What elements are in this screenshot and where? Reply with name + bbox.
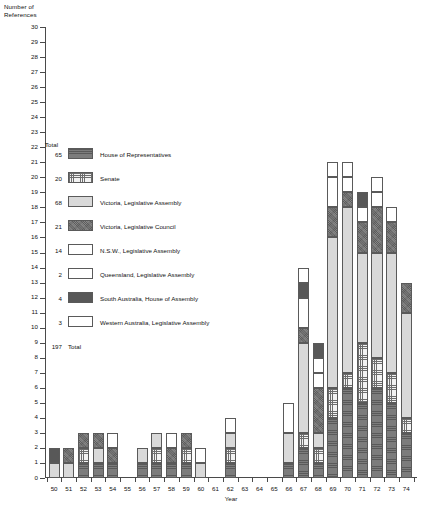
bar-segment xyxy=(327,388,338,418)
x-tick xyxy=(399,478,400,482)
x-tick xyxy=(355,478,356,482)
bar-segment xyxy=(327,237,338,387)
bar-segment xyxy=(386,253,397,373)
legend-item-label: Queensland, Legislative Assembly xyxy=(100,271,194,278)
x-tick-label: 50 xyxy=(51,485,58,492)
bar xyxy=(137,448,148,478)
bar-segment xyxy=(371,207,382,252)
x-tick xyxy=(267,478,268,482)
bar-segment xyxy=(342,192,353,207)
y-tick-label: 11 xyxy=(32,308,38,315)
bar xyxy=(327,162,338,478)
legend-item-total: 2 xyxy=(45,271,62,278)
legend-item: 2Queensland, Legislative Assembly xyxy=(45,268,275,281)
bar-segment xyxy=(357,192,368,207)
bar-segment xyxy=(107,463,118,478)
x-tick-label: 66 xyxy=(285,485,292,492)
x-tick xyxy=(238,478,239,482)
x-tick xyxy=(47,478,48,482)
y-tick-label: 8 xyxy=(35,353,38,360)
legend-item: 4South Australia, House of Assembly xyxy=(45,292,275,305)
bar-segment xyxy=(166,433,177,448)
bar xyxy=(298,268,309,478)
bar-segment xyxy=(151,448,162,463)
bar-segment xyxy=(371,253,382,358)
bar-segment xyxy=(313,448,324,463)
y-tick-label: 7 xyxy=(35,368,38,375)
legend-item-total: 14 xyxy=(45,247,62,254)
y-tick-label: 14 xyxy=(31,263,38,270)
y-tick: 13 xyxy=(40,283,45,284)
legend-swatch xyxy=(68,172,93,183)
bar-segment xyxy=(298,268,309,283)
bar-segment xyxy=(386,207,397,222)
bar-segment xyxy=(371,358,382,388)
legend-item-label: Western Australia, Legislative Assembly xyxy=(100,319,209,326)
x-tick xyxy=(179,478,180,482)
x-tick-label: 72 xyxy=(373,485,380,492)
x-tick-label: 70 xyxy=(344,485,351,492)
bar-segment xyxy=(63,448,74,463)
bar xyxy=(93,433,104,478)
bar-segment xyxy=(313,358,324,373)
legend-item: 65House of Representatives xyxy=(45,148,275,161)
x-tick xyxy=(105,478,106,482)
x-tick xyxy=(326,478,327,482)
y-tick: 28 xyxy=(40,57,45,58)
y-tick-label: 4 xyxy=(35,413,38,420)
y-tick-label: 10 xyxy=(31,323,38,330)
x-tick-label: 67 xyxy=(300,485,307,492)
bar-segment xyxy=(78,433,89,448)
legend-item-label: South Australia, House of Assembly xyxy=(100,295,198,302)
bar-segment xyxy=(195,448,206,463)
x-tick-label: 62 xyxy=(227,485,234,492)
bar-segment xyxy=(283,403,294,433)
bar xyxy=(357,192,368,478)
bar-segment xyxy=(357,222,368,252)
bar-segment xyxy=(342,207,353,372)
chart-root: Number of References 0123456789101112131… xyxy=(0,0,426,519)
x-tick xyxy=(91,478,92,482)
x-tick-label: 73 xyxy=(388,485,395,492)
legend-item-label: N.S.W., Legislative Assembly xyxy=(100,247,180,254)
y-tick-label: 28 xyxy=(31,53,38,60)
legend-item-label: Senate xyxy=(100,175,120,182)
bar-segment xyxy=(181,448,192,463)
bar xyxy=(386,207,397,478)
bar xyxy=(181,433,192,478)
bar-segment xyxy=(195,463,206,478)
bar-segment xyxy=(181,463,192,478)
y-tick-label: 22 xyxy=(31,143,38,150)
x-tick xyxy=(120,478,121,482)
bar-segment xyxy=(298,328,309,343)
legend-item-total: 3 xyxy=(45,319,62,326)
y-tick-label: 15 xyxy=(31,248,38,255)
x-tick xyxy=(340,478,341,482)
y-tick-label: 23 xyxy=(31,128,38,135)
y-tick: 29 xyxy=(40,42,45,43)
x-tick-label: 74 xyxy=(403,485,410,492)
bar-segment xyxy=(93,448,104,463)
x-tick-label: 61 xyxy=(212,485,219,492)
legend-footer-total-label: Total xyxy=(68,343,81,350)
legend-item: 20Senate xyxy=(45,172,275,185)
bar-segment xyxy=(327,177,338,207)
y-tick-label: 27 xyxy=(31,68,38,75)
legend-item-total: 21 xyxy=(45,223,62,230)
bar-segment xyxy=(225,418,236,433)
x-tick-label: 65 xyxy=(271,485,278,492)
x-tick-label: 52 xyxy=(80,485,87,492)
x-tick xyxy=(384,478,385,482)
bar-segment xyxy=(93,433,104,448)
bar-segment xyxy=(357,403,368,478)
y-tick-label: 16 xyxy=(31,233,38,240)
x-tick-label: 51 xyxy=(65,485,72,492)
bar-segment xyxy=(371,177,382,192)
bar-segment xyxy=(283,463,294,478)
y-tick-label: 30 xyxy=(31,23,38,30)
bar-segment xyxy=(225,463,236,478)
legend-swatch xyxy=(68,244,93,255)
y-tick-label: 26 xyxy=(31,83,38,90)
legend-item-label: Victoria, Legislative Assembly xyxy=(100,199,181,206)
x-tick-label: 57 xyxy=(153,485,160,492)
